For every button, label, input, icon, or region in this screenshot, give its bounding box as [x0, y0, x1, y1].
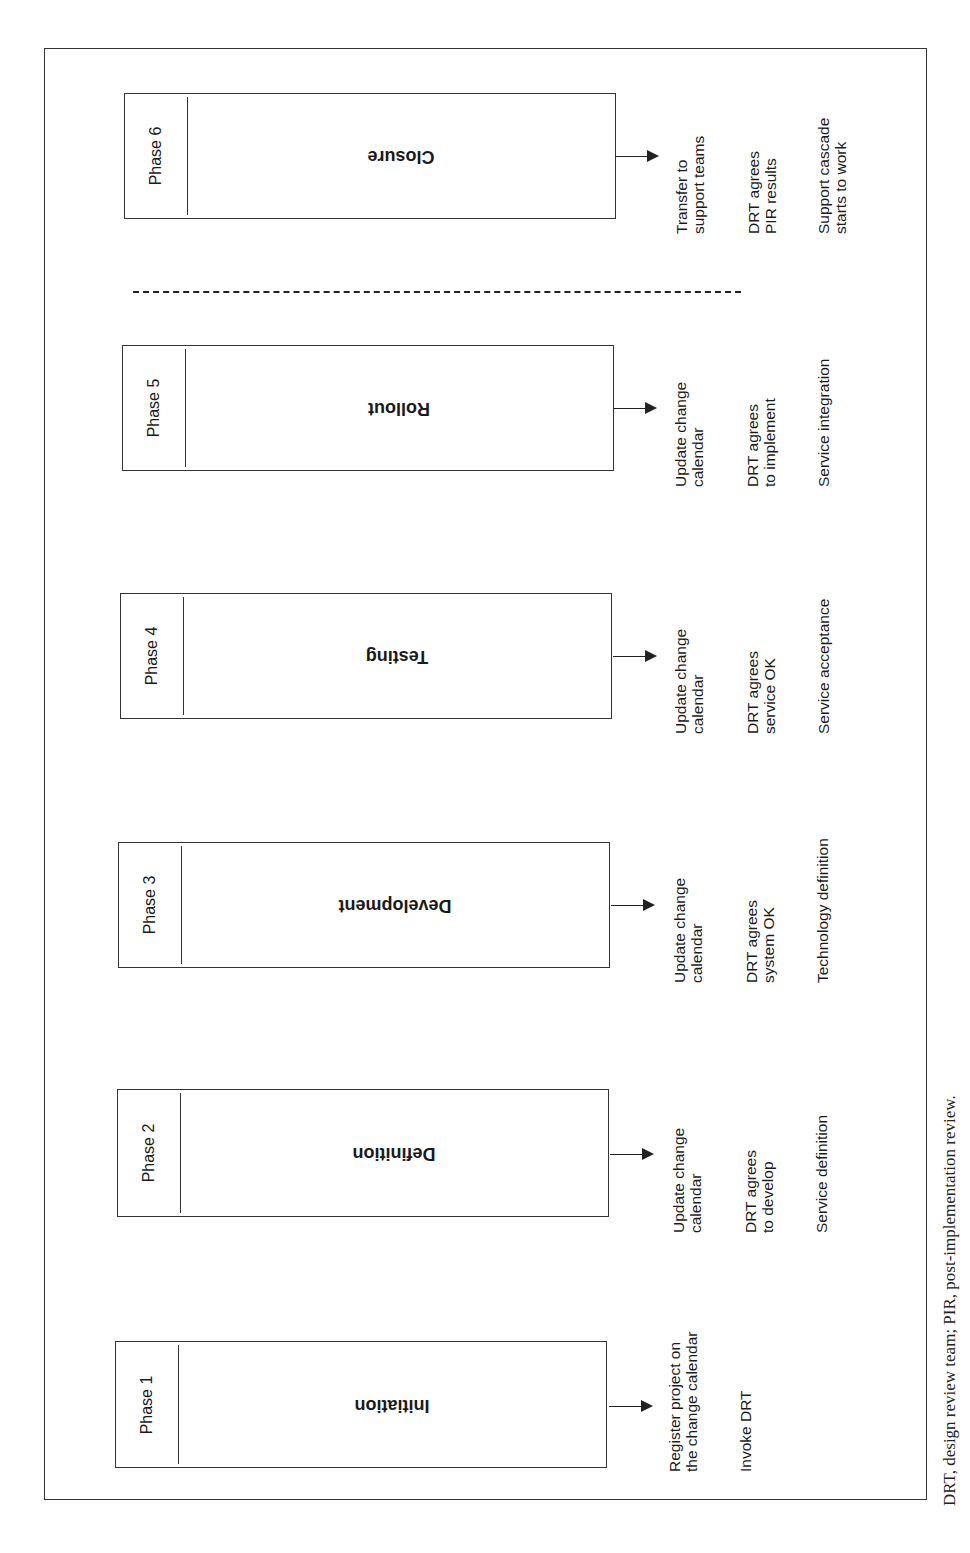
phase-6-note-1: Transfer tosupport teams [673, 136, 707, 234]
phase-title-text: Closure [367, 146, 434, 167]
arrow-right-icon [611, 905, 643, 906]
phase-3-title: Development [181, 843, 609, 967]
phase-label-text: Phase 1 [138, 1375, 156, 1434]
phase-2-title: Definition [180, 1090, 608, 1216]
phase-1-note-1: Register project onthe change calendar [666, 1332, 700, 1472]
phase-separator-dashed-line [133, 291, 741, 293]
phase-3-note-2: DRT agreessystem OK [743, 900, 777, 983]
phase-2-note-3: Service definition [813, 1115, 830, 1233]
phase-5-note-2: DRT agreesto implement [744, 398, 778, 487]
phase-3-note-1: Update changecalendar [671, 878, 705, 983]
phase-6-box: Phase 6 Closure [124, 93, 616, 219]
phase-4-label: Phase 4 [121, 594, 183, 718]
phase-5-note-3: Service integration [815, 359, 832, 487]
arrow-right-icon [610, 1154, 642, 1155]
arrow-right-icon [615, 156, 647, 157]
phase-2-label: Phase 2 [118, 1090, 180, 1216]
phase-1-label: Phase 1 [116, 1342, 178, 1467]
phase-3-label: Phase 3 [119, 843, 181, 967]
phase-6-note-2: DRT agreesPIR results [745, 151, 779, 234]
phase-6-label: Phase 6 [125, 94, 187, 218]
phase-title-text: Testing [366, 646, 429, 667]
phase-1-box: Phase 1 Initiation [115, 1341, 607, 1468]
phase-2-box: Phase 2 Definition [117, 1089, 609, 1217]
phase-title-text: Definition [353, 1143, 436, 1164]
phase-5-title: Rollout [185, 346, 613, 470]
phase-4-note-2: DRT agreesservice OK [744, 651, 778, 734]
phase-2-note-2: DRT agreesto develop [742, 1150, 776, 1233]
phase-1-title: Initiation [178, 1342, 606, 1467]
phase-3-note-3: Technology definition [814, 838, 831, 983]
phase-label-text: Phase 2 [140, 1124, 158, 1183]
phase-5-note-1: Update changecalendar [672, 382, 706, 487]
phase-5-label: Phase 5 [123, 346, 185, 470]
phase-4-note-1: Update changecalendar [672, 629, 706, 734]
phase-4-box: Phase 4 Testing [120, 593, 612, 719]
phase-title-text: Development [338, 895, 451, 916]
phase-5-box: Phase 5 Rollout [122, 345, 614, 471]
arrow-right-icon [609, 1406, 641, 1407]
phase-label-text: Phase 3 [141, 876, 159, 935]
phase-title-text: Initiation [355, 1394, 430, 1415]
phase-4-note-3: Service acceptance [815, 599, 832, 734]
diagram-frame [44, 48, 927, 1500]
arrow-right-icon [613, 408, 645, 409]
figure-caption: DRT, design review team; PIR, post-imple… [940, 1095, 960, 1506]
phase-4-title: Testing [183, 594, 611, 718]
phase-label-text: Phase 6 [147, 127, 165, 186]
phase-title-text: Rollout [368, 398, 430, 419]
arrow-right-icon [613, 656, 645, 657]
phase-label-text: Phase 5 [145, 379, 163, 438]
phase-6-note-3: Support cascadestarts to work [815, 118, 849, 234]
phase-6-title: Closure [187, 94, 615, 218]
phase-3-box: Phase 3 Development [118, 842, 610, 968]
phase-2-note-1: Update changecalendar [670, 1128, 704, 1233]
phase-1-note-2: Invoke DRT [737, 1390, 754, 1472]
phase-label-text: Phase 4 [143, 627, 161, 686]
